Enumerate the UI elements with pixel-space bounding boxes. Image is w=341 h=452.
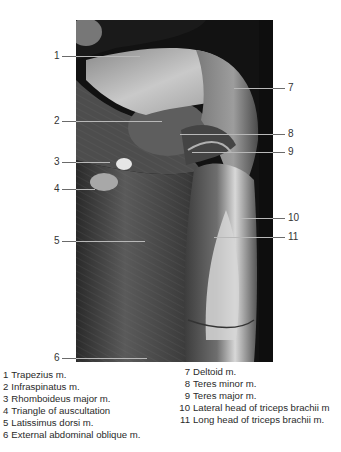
leader-line-10-outer: [273, 218, 285, 219]
leader-line-11-outer: [273, 237, 285, 238]
leader-line-8: [180, 134, 273, 135]
leader-line-1: [76, 56, 140, 57]
leader-line-6: [76, 358, 147, 359]
leader-line-8-outer: [273, 134, 285, 135]
leader-line-4: [76, 189, 95, 190]
legend-item: 10Lateral head of triceps brachii m: [176, 402, 330, 414]
label-8: 8: [288, 129, 294, 139]
legend-item: 1Trapezius m.: [3, 369, 140, 381]
leader-line-7: [234, 88, 273, 89]
label-3: 3: [54, 157, 60, 167]
label-2: 2: [54, 116, 60, 126]
legend-item: 6External abdominal oblique m.: [3, 429, 140, 441]
anatomy-figure: 1 2 3 4 5 6 7 8 9 10 11: [0, 0, 341, 365]
legend-item: 4Triangle of auscultation: [3, 405, 140, 417]
muscle-illustration: [76, 20, 273, 362]
label-7: 7: [288, 83, 294, 93]
label-1: 1: [54, 51, 60, 61]
legend-right-column: 7Deltoid m. 8Teres minor m. 9Teres major…: [176, 366, 330, 426]
label-10: 10: [288, 213, 299, 223]
label-9: 9: [288, 147, 294, 157]
legend-item: 3Rhomboideus major m.: [3, 393, 140, 405]
label-11: 11: [288, 232, 298, 242]
leader-line-7-outer: [273, 88, 285, 89]
leader-line-2-outer: [62, 121, 76, 122]
label-6: 6: [54, 353, 60, 363]
legend-item: 5Latissimus dorsi m.: [3, 417, 140, 429]
leader-line-6-outer: [62, 358, 76, 359]
leader-line-10: [240, 218, 273, 219]
leader-line-1-outer: [62, 56, 76, 57]
label-5: 5: [54, 236, 60, 246]
legend-item: 11Long head of triceps brachii m.: [176, 414, 330, 426]
legend-item: 9Teres major m.: [176, 390, 330, 402]
leader-line-5-outer: [62, 241, 76, 242]
leader-line-2: [76, 121, 162, 122]
leader-line-9-outer: [273, 152, 285, 153]
leader-line-5: [76, 241, 145, 242]
leader-line-3: [76, 162, 110, 163]
leader-line-4-outer: [62, 189, 76, 190]
dissection-photo: [76, 20, 273, 362]
leader-line-9: [192, 152, 273, 153]
legend-left-column: 1Trapezius m. 2Infraspinatus m. 3Rhomboi…: [3, 369, 140, 442]
legend-item: 7Deltoid m.: [176, 366, 330, 378]
legend-item: 2Infraspinatus m.: [3, 381, 140, 393]
leader-line-11: [214, 237, 273, 238]
legend-item: 8Teres minor m.: [176, 378, 330, 390]
label-4: 4: [54, 184, 60, 194]
leader-line-3-outer: [62, 162, 76, 163]
